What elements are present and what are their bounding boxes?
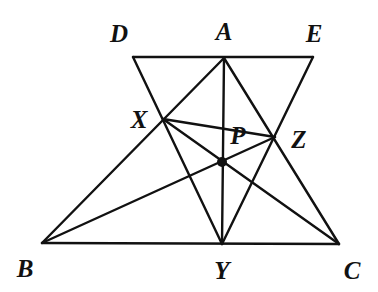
segment-a-to-c [224,58,339,244]
vertex-label-z: Z [291,127,306,152]
vertex-label-y: Y [214,258,229,283]
segment-bc-base [42,243,339,244]
cevian-c-to-x [163,119,339,244]
cevian-b-to-z [42,137,275,243]
vertex-label-e: E [306,21,323,46]
vertex-label-a: A [216,19,233,44]
vertex-label-b: B [17,256,34,281]
geometry-figure: DAEXZPBYC [0,0,378,292]
vertex-label-c: C [344,258,361,283]
vertex-label-x: X [131,107,148,132]
segment-x-to-z [163,119,275,137]
point-markers-group [217,157,227,167]
point-marker-p [217,157,227,167]
segment-a-to-b [42,58,224,243]
vertex-label-p: P [230,123,245,148]
median-a-to-y [222,58,224,244]
vertex-label-d: D [110,21,128,46]
